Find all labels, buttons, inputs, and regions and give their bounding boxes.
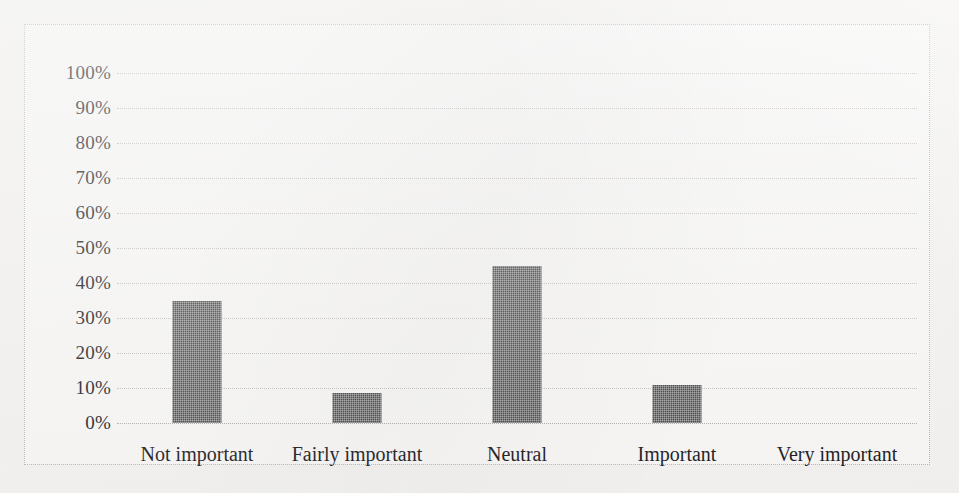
- y-axis-tick-label: 90%: [25, 98, 111, 117]
- y-axis-tick-label: 0%: [25, 413, 111, 432]
- y-axis-tick-label: 10%: [25, 378, 111, 397]
- y-axis-tick-label: 20%: [25, 343, 111, 362]
- y-axis-tick-label: 50%: [25, 238, 111, 257]
- x-axis-tick-label: Very important: [742, 441, 932, 467]
- plot-area: [117, 37, 917, 435]
- bar[interactable]: [653, 385, 702, 424]
- bar[interactable]: [333, 393, 382, 423]
- y-axis-tick-label: 60%: [25, 203, 111, 222]
- bar[interactable]: [173, 301, 222, 424]
- bar[interactable]: [493, 266, 542, 424]
- y-axis-tick-label: 70%: [25, 168, 111, 187]
- bar-slot: [757, 25, 917, 423]
- y-axis-tick-label: 80%: [25, 133, 111, 152]
- y-axis: 0%10%20%30%40%50%60%70%80%90%100%: [25, 37, 111, 435]
- y-axis-tick-label: 100%: [25, 63, 111, 82]
- chart-frame: 0%10%20%30%40%50%60%70%80%90%100% Not im…: [24, 24, 930, 465]
- bar-slot: [117, 25, 277, 423]
- y-axis-tick-label: 40%: [25, 273, 111, 292]
- bar-slot: [597, 25, 757, 423]
- bar-slot: [437, 25, 597, 423]
- y-axis-tick-label: 30%: [25, 308, 111, 327]
- x-axis: Not importantFairly importantNeutralImpo…: [117, 441, 917, 475]
- bars-group: [117, 37, 917, 435]
- bar-slot: [277, 25, 437, 423]
